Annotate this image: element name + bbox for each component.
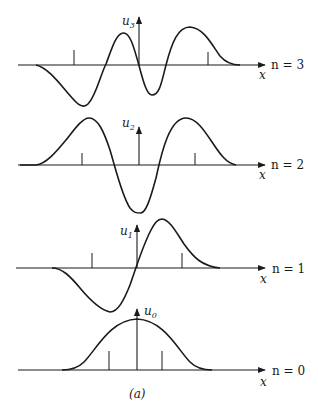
u-axis-label-n1: u1	[120, 224, 133, 240]
panel-n3: u3 n = 3 x	[18, 14, 304, 106]
x-axis-label-n3: x	[259, 68, 266, 82]
wavefunction-curve-n3	[36, 27, 240, 106]
u-axis-label-n3: u3	[122, 14, 135, 30]
panel-n1: u1 n = 1 x	[16, 219, 305, 312]
x-axis-label-n0: x	[260, 375, 267, 389]
u-axis-label-n2: u2	[122, 116, 135, 132]
n-label-n3: n = 3	[271, 58, 304, 72]
panel-n2: u2 n = 2 x	[18, 116, 304, 213]
n-label-n2: n = 2	[271, 158, 304, 172]
u-axis-label-n0: u0	[144, 304, 157, 320]
n-label-n1: n = 1	[272, 262, 305, 276]
wavefunction-curve-n1	[52, 219, 220, 312]
panel-n0: u0 n = 0 x	[18, 304, 305, 389]
n-label-n0: n = 0	[272, 364, 305, 378]
x-axis-label-n1: x	[260, 272, 267, 286]
figure-caption: (a)	[129, 387, 146, 401]
harmonic-oscillator-wavefunctions-diagram: u3 n = 3 x u2 n = 2 x u1 n = 1 x u0 n = …	[0, 0, 318, 420]
x-axis-label-n2: x	[259, 168, 266, 182]
